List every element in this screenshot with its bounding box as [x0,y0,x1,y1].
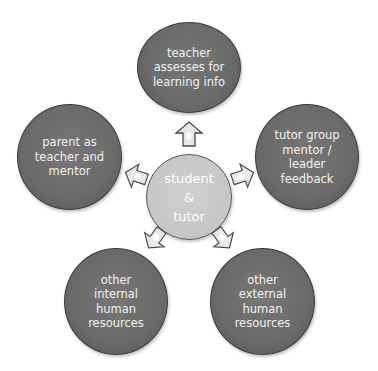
node-label-line: resources [88,316,144,331]
center-label-line: & [184,188,194,207]
node-label-line: teacher and [35,150,104,165]
node-label-line: teacher [167,46,211,61]
node-label-line: assesses for [154,60,225,75]
node-label-line: parent as [42,135,96,150]
node-label-line: mentor [49,164,91,179]
node-label-line: external [239,287,286,302]
node-label-line: human [96,302,136,317]
node-label-line: resources [235,316,291,331]
node-internal-resources: other internal human resources [64,248,168,355]
center-label-line: tutor [173,207,205,226]
node-label-line: learning info [153,75,225,90]
node-label-line: tutor group [274,128,339,143]
node-label-line: human [242,302,282,317]
center-label-line: student [164,169,214,188]
node-label-line: mentor / [282,143,331,158]
node-label-line: leader [289,157,325,172]
node-tutor-group: tutor group mentor / leader feedback [255,104,359,210]
node-label-line: other [101,273,132,288]
node-label-line: feedback [281,172,334,187]
arrow-right-icon [228,160,259,192]
arrow-up-icon [175,121,203,147]
node-teacher-assesses: teacher assesses for learning info [137,22,241,113]
node-label-line: other [247,273,278,288]
node-external-resources: other external human resources [210,248,315,355]
node-parent: parent as teacher and mentor [17,104,122,210]
node-label-line: internal [94,287,138,302]
